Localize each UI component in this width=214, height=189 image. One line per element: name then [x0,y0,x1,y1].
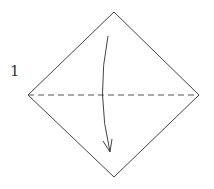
origami-diagram [0,0,214,189]
